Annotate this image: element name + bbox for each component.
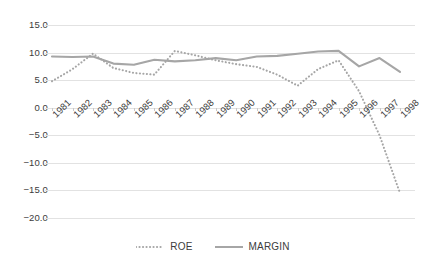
chart-legend: ROEMARGIN xyxy=(0,241,426,252)
plot-area xyxy=(45,25,415,218)
legend-swatch-margin-icon xyxy=(215,243,243,251)
series-line-roe xyxy=(52,51,400,193)
grid-line xyxy=(45,218,415,219)
legend-item-roe[interactable]: ROE xyxy=(136,241,192,252)
legend-label: ROE xyxy=(170,241,192,252)
legend-swatch-roe-icon xyxy=(136,243,164,251)
chart-container: 15.010.05.00.0−5.0−10.0−15.0−20.0 198119… xyxy=(0,0,426,267)
legend-item-margin[interactable]: MARGIN xyxy=(215,241,290,252)
series-lines xyxy=(45,25,415,218)
legend-label: MARGIN xyxy=(249,241,290,252)
